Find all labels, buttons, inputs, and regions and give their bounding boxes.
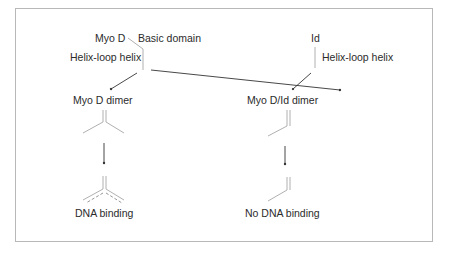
diagram-canvas <box>0 0 454 257</box>
arrow-to-myod-id-dimer <box>151 70 340 90</box>
arrow-to-myod-dimer <box>111 73 137 89</box>
basic-domain-label: Basic domain <box>138 32 201 44</box>
myod-label: Myo D <box>95 32 125 44</box>
myod-id-dimer-icon <box>268 110 290 136</box>
myod-dimer-icon <box>83 110 124 133</box>
id-label: Id <box>311 32 320 44</box>
non-binding-dimer-icon <box>268 177 290 201</box>
myod-dimer-label: Myo D dimer <box>73 94 133 106</box>
left-helix-loop-helix-label: Helix-loop helix <box>70 51 141 63</box>
no-dna-binding-label: No DNA binding <box>245 207 320 219</box>
dna-binding-label: DNA binding <box>75 207 133 219</box>
dna-bound-dimer-icon <box>83 176 124 203</box>
myod-id-dimer-label: Myo D/Id dimer <box>247 94 318 106</box>
right-helix-loop-helix-label: Helix-loop helix <box>322 51 393 63</box>
